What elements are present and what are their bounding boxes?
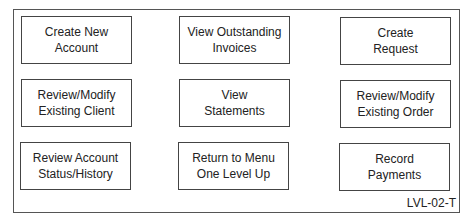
button-label: View Statements: [204, 87, 265, 119]
create-new-account-button[interactable]: Create New Account: [21, 16, 132, 64]
record-payments-button[interactable]: Record Payments: [339, 143, 450, 191]
button-label: Create New Account: [45, 24, 108, 56]
button-label: Review Account Status/History: [33, 150, 118, 182]
button-label: View Outstanding Invoices: [188, 24, 282, 56]
review-account-status-history-button[interactable]: Review Account Status/History: [20, 142, 131, 190]
button-label: Create Request: [373, 25, 418, 57]
button-label: Review/Modify Existing Order: [356, 88, 434, 120]
view-statements-button[interactable]: View Statements: [179, 79, 290, 127]
button-label: Record Payments: [368, 151, 421, 183]
button-label: Return to Menu One Level Up: [192, 150, 275, 182]
review-modify-existing-order-button[interactable]: Review/Modify Existing Order: [340, 80, 451, 128]
review-modify-existing-client-button[interactable]: Review/Modify Existing Client: [21, 79, 132, 127]
create-request-button[interactable]: Create Request: [340, 17, 451, 65]
button-label: Review/Modify Existing Client: [37, 87, 115, 119]
view-outstanding-invoices-button[interactable]: View Outstanding Invoices: [179, 16, 290, 64]
return-to-menu-button[interactable]: Return to Menu One Level Up: [178, 142, 289, 190]
screen-code: LVL-02-T: [407, 196, 456, 210]
